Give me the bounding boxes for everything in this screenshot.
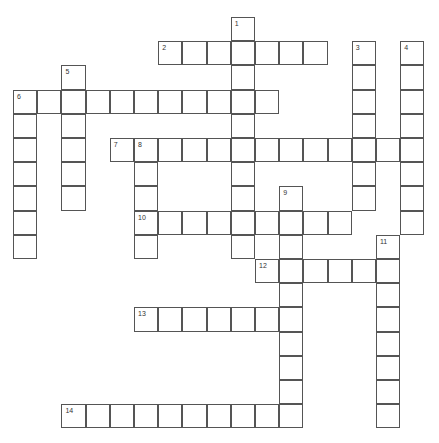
crossword-cell[interactable]	[182, 90, 206, 114]
crossword-cell[interactable]	[255, 90, 279, 114]
crossword-cell[interactable]	[279, 259, 303, 283]
crossword-cell[interactable]	[352, 138, 376, 162]
crossword-cell[interactable]	[13, 114, 37, 138]
crossword-cell[interactable]	[86, 404, 110, 428]
crossword-cell[interactable]: 10	[134, 211, 158, 235]
crossword-cell[interactable]	[352, 186, 376, 210]
crossword-cell[interactable]	[279, 332, 303, 356]
crossword-cell[interactable]	[400, 162, 424, 186]
crossword-cell[interactable]	[207, 404, 231, 428]
crossword-cell[interactable]: 8	[134, 138, 158, 162]
crossword-cell[interactable]	[158, 138, 182, 162]
crossword-cell[interactable]	[352, 65, 376, 89]
crossword-cell[interactable]	[207, 41, 231, 65]
crossword-cell[interactable]	[231, 41, 255, 65]
crossword-cell[interactable]	[279, 380, 303, 404]
crossword-cell[interactable]	[182, 138, 206, 162]
crossword-cell[interactable]	[231, 162, 255, 186]
crossword-cell[interactable]	[13, 162, 37, 186]
crossword-cell[interactable]	[231, 90, 255, 114]
crossword-cell[interactable]	[182, 211, 206, 235]
crossword-cell[interactable]	[279, 404, 303, 428]
crossword-cell[interactable]	[134, 404, 158, 428]
crossword-cell[interactable]	[376, 404, 400, 428]
crossword-cell[interactable]	[134, 90, 158, 114]
crossword-cell[interactable]	[182, 404, 206, 428]
crossword-cell[interactable]	[61, 162, 85, 186]
crossword-cell[interactable]	[231, 186, 255, 210]
crossword-cell[interactable]	[158, 307, 182, 331]
crossword-cell[interactable]	[86, 90, 110, 114]
crossword-cell[interactable]: 9	[279, 186, 303, 210]
crossword-cell[interactable]: 13	[134, 307, 158, 331]
crossword-cell[interactable]	[207, 138, 231, 162]
crossword-cell[interactable]	[13, 211, 37, 235]
crossword-cell[interactable]: 3	[352, 41, 376, 65]
crossword-cell[interactable]	[134, 235, 158, 259]
crossword-cell[interactable]	[279, 356, 303, 380]
crossword-cell[interactable]	[134, 162, 158, 186]
crossword-cell[interactable]	[231, 404, 255, 428]
crossword-cell[interactable]	[13, 186, 37, 210]
crossword-cell[interactable]	[255, 404, 279, 428]
crossword-cell[interactable]	[255, 211, 279, 235]
crossword-cell[interactable]	[376, 332, 400, 356]
crossword-cell[interactable]	[134, 186, 158, 210]
crossword-cell[interactable]	[13, 138, 37, 162]
crossword-cell[interactable]: 4	[400, 41, 424, 65]
crossword-cell[interactable]: 12	[255, 259, 279, 283]
crossword-cell[interactable]	[328, 211, 352, 235]
crossword-cell[interactable]: 5	[61, 65, 85, 89]
crossword-cell[interactable]	[255, 41, 279, 65]
crossword-cell[interactable]: 11	[376, 235, 400, 259]
crossword-cell[interactable]	[279, 211, 303, 235]
crossword-cell[interactable]	[400, 138, 424, 162]
crossword-cell[interactable]	[231, 114, 255, 138]
crossword-cell[interactable]	[182, 41, 206, 65]
crossword-cell[interactable]	[207, 307, 231, 331]
crossword-cell[interactable]: 1	[231, 17, 255, 41]
crossword-cell[interactable]	[255, 307, 279, 331]
crossword-cell[interactable]	[376, 356, 400, 380]
crossword-cell[interactable]	[255, 138, 279, 162]
crossword-cell[interactable]: 7	[110, 138, 134, 162]
crossword-cell[interactable]	[13, 235, 37, 259]
crossword-cell[interactable]: 6	[13, 90, 37, 114]
crossword-cell[interactable]	[110, 90, 134, 114]
crossword-cell[interactable]	[61, 114, 85, 138]
crossword-cell[interactable]	[110, 404, 134, 428]
crossword-cell[interactable]	[61, 138, 85, 162]
crossword-cell[interactable]	[231, 235, 255, 259]
crossword-cell[interactable]	[158, 90, 182, 114]
crossword-cell[interactable]	[328, 138, 352, 162]
crossword-cell[interactable]	[376, 283, 400, 307]
crossword-cell[interactable]	[61, 186, 85, 210]
crossword-cell[interactable]: 2	[158, 41, 182, 65]
crossword-cell[interactable]	[400, 211, 424, 235]
crossword-cell[interactable]	[158, 404, 182, 428]
crossword-cell[interactable]	[61, 90, 85, 114]
crossword-cell[interactable]: 14	[61, 404, 85, 428]
crossword-cell[interactable]	[231, 211, 255, 235]
crossword-cell[interactable]	[231, 307, 255, 331]
crossword-cell[interactable]	[303, 41, 327, 65]
crossword-cell[interactable]	[376, 380, 400, 404]
crossword-cell[interactable]	[352, 90, 376, 114]
crossword-cell[interactable]	[158, 211, 182, 235]
crossword-cell[interactable]	[182, 307, 206, 331]
crossword-cell[interactable]	[279, 283, 303, 307]
crossword-cell[interactable]	[279, 41, 303, 65]
crossword-cell[interactable]	[352, 114, 376, 138]
crossword-cell[interactable]	[400, 186, 424, 210]
crossword-cell[interactable]	[376, 307, 400, 331]
crossword-cell[interactable]	[207, 90, 231, 114]
crossword-cell[interactable]	[37, 90, 61, 114]
crossword-cell[interactable]	[207, 211, 231, 235]
crossword-cell[interactable]	[279, 307, 303, 331]
crossword-cell[interactable]	[303, 138, 327, 162]
crossword-cell[interactable]	[303, 259, 327, 283]
crossword-cell[interactable]	[376, 138, 400, 162]
crossword-cell[interactable]	[352, 162, 376, 186]
crossword-cell[interactable]	[303, 211, 327, 235]
crossword-cell[interactable]	[279, 235, 303, 259]
